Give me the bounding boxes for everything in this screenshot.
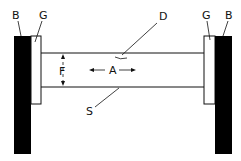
diagram-canvas: F A D S B G G B	[0, 0, 241, 161]
b-left-leader	[18, 21, 21, 36]
label-f: F	[59, 65, 65, 78]
left-b-block	[14, 36, 31, 154]
s-leader	[95, 88, 119, 107]
b-right-leader	[223, 21, 228, 36]
label-g-right: G	[202, 9, 211, 22]
left-g-block	[31, 36, 41, 104]
right-b-block	[215, 36, 232, 154]
label-b-right: B	[225, 9, 233, 22]
label-d: D	[159, 10, 167, 23]
label-g-left: G	[39, 9, 48, 22]
label-a: A	[109, 64, 117, 77]
right-g-block	[204, 36, 215, 104]
label-s: S	[86, 105, 93, 118]
label-b-left: B	[12, 9, 20, 22]
